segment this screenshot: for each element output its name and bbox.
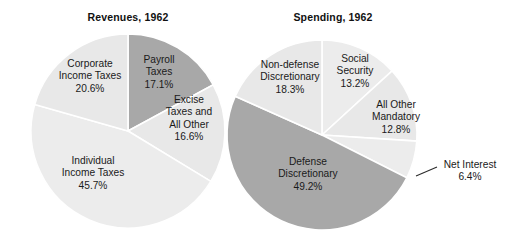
chart-revenues-title: Revenues, 1962 [88, 11, 169, 23]
pie-label-value: 18.3% [276, 84, 305, 95]
pie-label-line: Net Interest [444, 159, 497, 170]
pie-label-line: Income Taxes [59, 70, 122, 81]
pie-label-value: 12.8% [382, 124, 411, 135]
pie-chart-figure: Revenues, 1962 PayrollTaxes17.1%ExciseTa… [0, 0, 509, 249]
pie-label-value: 13.2% [341, 78, 370, 89]
pie-label-social-security: SocialSecurity13.2% [337, 53, 375, 89]
pie-label-value: 16.6% [175, 131, 204, 142]
pie-label-value: 17.1% [145, 79, 174, 90]
pie-label-line: Taxes and [166, 106, 213, 117]
pie-label-payroll-taxes: PayrollTaxes17.1% [143, 54, 174, 90]
pie-label-line: Mandatory [372, 111, 421, 122]
pie-label-line: Security [337, 65, 375, 76]
pie-label-line: Payroll [143, 54, 174, 65]
pie-label-value: 49.2% [294, 181, 323, 192]
pie-label-line: Individual [71, 155, 114, 166]
pie-label-line: All Other [169, 119, 209, 130]
pie-label-line: Discretionary [260, 71, 320, 82]
pie-label-line: All Other [376, 99, 416, 110]
chart-spending-title: Spending, 1962 [293, 11, 372, 23]
pie-label-value: 6.4% [458, 171, 481, 182]
pie-label-line: Taxes [146, 66, 173, 77]
pie-label-value: 20.6% [76, 83, 105, 94]
pie-label-line: Income Taxes [62, 167, 125, 178]
pie-label-line: Corporate [67, 58, 113, 69]
pie-label-line: Non-defense [261, 59, 320, 70]
pie-label-line: Defense [289, 156, 327, 167]
pie-label-line: Social [341, 53, 369, 64]
pie-label-line: Excise [174, 94, 204, 105]
pie-label-line: Discretionary [278, 168, 338, 179]
pie-label-value: 45.7% [79, 180, 108, 191]
chart-spending-wedges [227, 40, 417, 230]
